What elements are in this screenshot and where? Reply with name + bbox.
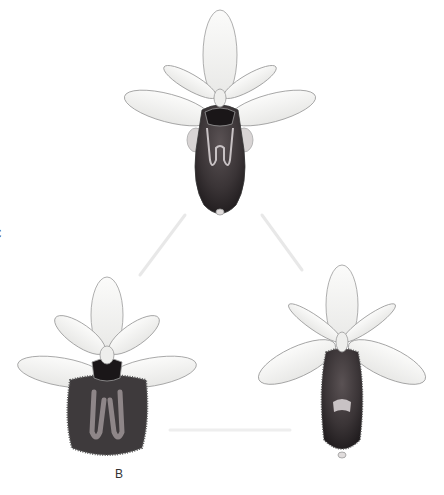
connector-lines [140, 215, 302, 430]
orchid-a [15, 277, 198, 455]
orchid-c [121, 10, 319, 215]
orchid-illustration: C A B [0, 0, 444, 495]
label-b: B [115, 467, 123, 481]
label-c: C [0, 227, 2, 241]
